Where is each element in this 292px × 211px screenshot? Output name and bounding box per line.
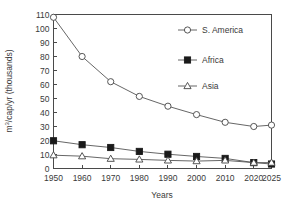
y-tick-label: 50 [40, 94, 50, 104]
data-point-open-circle [184, 27, 190, 33]
data-series-group [50, 14, 275, 167]
data-point-filled-square [136, 148, 142, 154]
x-tick-label: 2020 [244, 173, 263, 183]
data-point-open-circle [222, 119, 228, 125]
data-point-open-circle [268, 122, 274, 128]
y-tick-label: 80 [40, 52, 50, 62]
data-point-open-circle [136, 93, 142, 99]
y-tick-label: 20 [40, 136, 50, 146]
data-point-open-circle [79, 53, 85, 59]
chart-figure: 0102030405060708090100110 19501960197019… [0, 0, 292, 211]
series-africa [50, 138, 274, 167]
x-tick-label: 1980 [130, 173, 149, 183]
legend-label: Africa [202, 55, 224, 65]
legend-entry-africa: Africa [178, 55, 224, 65]
data-point-filled-square [108, 144, 114, 150]
y-tick-label: 10 [40, 150, 50, 160]
x-tick-label: 1950 [44, 173, 63, 183]
x-tick-label: 1990 [158, 173, 177, 183]
x-tick-label: 1970 [101, 173, 120, 183]
data-point-filled-square [50, 138, 56, 144]
x-tick-label: 2010 [216, 173, 235, 183]
data-point-open-circle [50, 14, 56, 20]
legend-label: S. America [202, 25, 243, 35]
y-tick-label: 110 [36, 10, 50, 20]
legend-label: Asia [202, 81, 219, 91]
line-chart: 0102030405060708090100110 19501960197019… [0, 0, 292, 211]
data-point-open-circle [165, 103, 171, 109]
y-tick-label: 40 [40, 108, 50, 118]
x-tick-label: 1960 [73, 173, 92, 183]
data-point-open-triangle [184, 82, 191, 88]
y-tick-label: 70 [40, 66, 50, 76]
data-point-filled-square [79, 142, 85, 148]
y-axis-title: m3/cap/yr (thousands) [4, 49, 14, 132]
x-axis: 195019601970198019902000201020202025 [44, 165, 281, 183]
svg-text:m3/cap/yr (thousands): m3/cap/yr (thousands) [4, 49, 14, 132]
data-point-open-circle [108, 79, 114, 85]
y-tick-label: 30 [40, 122, 50, 132]
x-tick-label: 2000 [187, 173, 206, 183]
data-point-open-circle [251, 123, 257, 129]
chart-legend: S. AmericaAfricaAsia [178, 25, 243, 91]
data-point-open-circle [193, 112, 199, 118]
x-axis-title: Years [151, 190, 172, 200]
data-point-filled-square [184, 57, 190, 63]
legend-entry-s-america: S. America [178, 25, 243, 35]
x-tick-label: 2025 [262, 173, 281, 183]
y-tick-label: 100 [35, 24, 49, 34]
y-tick-label: 90 [40, 38, 50, 48]
legend-entry-asia: Asia [178, 81, 219, 91]
y-tick-label: 60 [40, 80, 50, 90]
